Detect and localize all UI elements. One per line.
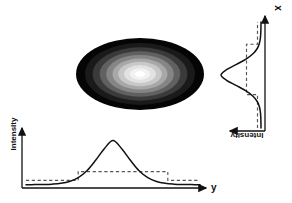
right-gaussian-curve [221, 22, 261, 128]
bottom-y-axis-label: Intensity [10, 111, 18, 157]
beam-intensity-figure: Intensity Intensity y x [0, 0, 292, 203]
right-step-approximation [247, 22, 258, 128]
right-intensity-axis-label: Intensity [224, 131, 270, 139]
bottom-x-axis-label: y [211, 183, 217, 193]
right-profile-chart [0, 0, 292, 203]
right-x-axis-label: x [273, 5, 283, 11]
